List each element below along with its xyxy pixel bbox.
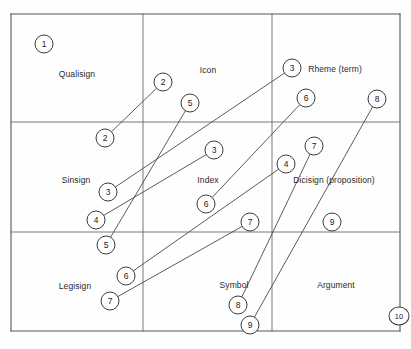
node-circle-n3b[interactable]: 3 <box>205 141 224 160</box>
link-3b <box>104 155 206 215</box>
node-circle-n6a[interactable]: 6 <box>297 89 316 108</box>
node-circle-n2b[interactable]: 2 <box>96 129 115 148</box>
node-circle-n4b[interactable]: 4 <box>87 211 106 230</box>
node-circle-n4a[interactable]: 4 <box>277 155 296 174</box>
node-circle-n3a[interactable]: 3 <box>283 59 302 78</box>
cell-label-argument: Argument <box>317 280 355 290</box>
node-circle-n1[interactable]: 1 <box>35 35 54 54</box>
node-circle-n8b[interactable]: 8 <box>229 296 248 315</box>
node-circle-n7c[interactable]: 7 <box>101 292 120 311</box>
link-2 <box>112 89 156 132</box>
cell-label-rheme: Rheme (term) <box>308 64 362 74</box>
node-circle-n8a[interactable]: 8 <box>368 90 387 109</box>
link-3 <box>116 73 284 186</box>
cell-label-dicisign: Dicisign (proposition) <box>293 175 375 185</box>
node-circle-n3c[interactable]: 3 <box>99 183 118 202</box>
cell-label-icon: Icon <box>200 65 216 75</box>
node-circle-n5b[interactable]: 5 <box>97 236 116 255</box>
node-circle-n2a[interactable]: 2 <box>154 73 173 92</box>
link-6 <box>213 105 300 197</box>
node-circle-n6c[interactable]: 6 <box>117 267 136 286</box>
node-circle-n7b[interactable]: 7 <box>241 213 260 232</box>
node-circle-n7a[interactable]: 7 <box>305 137 324 156</box>
cell-label-qualisign: Qualisign <box>59 69 95 79</box>
node-circle-n10[interactable]: 10 <box>389 307 410 326</box>
node-circle-n5a[interactable]: 5 <box>181 94 200 113</box>
cell-label-legisign: Legisign <box>59 281 91 291</box>
node-circle-n6b[interactable]: 6 <box>197 195 216 214</box>
node-circle-n9a[interactable]: 9 <box>323 213 342 232</box>
node-circle-n9b[interactable]: 9 <box>241 316 260 335</box>
cell-label-index: Index <box>197 175 218 185</box>
diagram-canvas: QualisignIconRheme (term)SinsignIndexDic… <box>0 0 411 349</box>
cell-label-sinsign: Sinsign <box>62 175 91 185</box>
cell-label-symbol: Symbol <box>220 280 249 290</box>
